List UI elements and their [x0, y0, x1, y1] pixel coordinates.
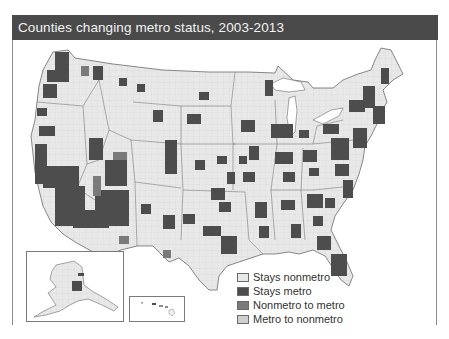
swatch-metro-to-nonmetro	[237, 315, 249, 324]
title-bar: Counties changing metro status, 2003-201…	[12, 15, 438, 40]
legend-label: Nonmetro to metro	[253, 299, 345, 311]
frame-right-border	[436, 40, 437, 325]
swatch-stays-nonmetro	[237, 273, 249, 282]
legend-label: Metro to nonmetro	[253, 313, 343, 325]
swatch-stays-metro	[237, 287, 249, 296]
swatch-nonmetro-to-metro	[237, 301, 249, 310]
alaska-inset-map	[26, 251, 122, 320]
legend-item-metro-to-nonmetro: Metro to nonmetro	[237, 312, 347, 326]
legend-label: Stays metro	[253, 285, 312, 297]
legend-item-nonmetro-to-metro: Nonmetro to metro	[237, 298, 347, 312]
hawaii-inset-map	[129, 296, 183, 320]
legend-label: Stays nonmetro	[253, 271, 330, 283]
map-title: Counties changing metro status, 2003-201…	[18, 20, 284, 35]
legend-item-stays-nonmetro: Stays nonmetro	[237, 270, 347, 284]
map-legend: Stays nonmetro Stays metro Nonmetro to m…	[237, 270, 347, 326]
legend-item-stays-metro: Stays metro	[237, 284, 347, 298]
